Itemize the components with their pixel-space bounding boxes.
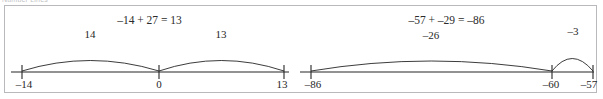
tick-label-right-3: –57	[581, 78, 598, 90]
equation-left: –14 + 27 = 13	[7, 14, 292, 26]
number-line-panel-right: –57 + –29 = –86 –26 –3 –86 –60 –57	[297, 6, 596, 94]
figure-caption: Number Lines	[2, 0, 48, 3]
number-line-graphic-left	[7, 28, 292, 94]
hop-arc-right-2	[552, 59, 593, 72]
number-line-panel-left: –14 + 27 = 13 14 13 –14 0 13	[7, 6, 292, 94]
tick-label-right-1: –86	[305, 78, 322, 90]
figure-frame: –14 + 27 = 13 14 13 –14 0 13 –57 + –29 =…	[4, 5, 597, 93]
tick-label-left-3: 13	[277, 78, 288, 90]
equation-right: –57 + –29 = –86	[297, 14, 596, 26]
hop-label-left-1: 14	[85, 28, 96, 40]
hop-label-right-1: –26	[423, 29, 440, 41]
hop-arc-right-1	[311, 61, 552, 71]
tick-label-left-1: –14	[16, 78, 33, 90]
tick-label-right-2: –60	[543, 78, 560, 90]
hop-label-left-2: 13	[216, 28, 227, 40]
hop-arc-left-1	[22, 61, 159, 72]
diagram-right: –26 –3 –86 –60 –57	[297, 28, 596, 94]
diagram-left: 14 13 –14 0 13	[7, 28, 292, 94]
tick-label-left-2: 0	[156, 78, 162, 90]
hop-label-right-2: –3	[568, 25, 579, 37]
hop-arc-left-2	[159, 61, 284, 72]
